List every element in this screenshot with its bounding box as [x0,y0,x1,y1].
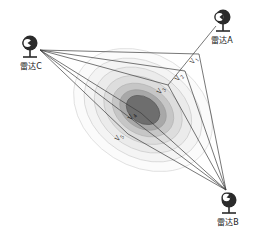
ray-b-5 [128,134,226,190]
radar-station-b[interactable]: 雷达B [201,190,255,228]
radar-c-label: 雷达C [4,62,58,72]
radar-a-label: 雷达A [195,36,249,46]
radar-dish-icon [207,8,237,36]
radar-target-diagram: 雷达A 雷达B 雷达C V1V2V3V4V5 [0,0,263,238]
radar-dish-icon [213,190,243,218]
radar-station-a[interactable]: 雷达A [195,8,249,46]
radar-station-c[interactable]: 雷达C [4,34,58,72]
ray-lines [40,26,226,190]
ray-c-3 [40,50,168,85]
radar-b-label: 雷达B [201,218,255,228]
ray-b-2 [185,71,226,190]
ray-b-3 [168,85,226,190]
radar-dish-icon [16,34,46,62]
